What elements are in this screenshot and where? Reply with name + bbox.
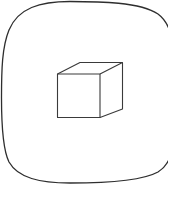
squircle-outline bbox=[2, 2, 169, 184]
app-icon-tile[interactable]: 3D cube bbox=[0, 0, 168, 198]
icon-canvas bbox=[0, 0, 168, 198]
